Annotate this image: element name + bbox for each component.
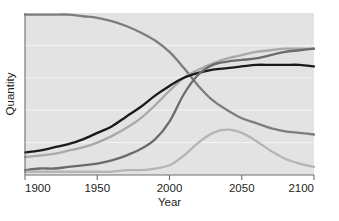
x-tick-label-1950: 1950 [84,182,110,194]
x-tick-label-2100: 2100 [288,182,314,194]
y-axis-title: Quantity [4,72,16,115]
x-tick-label-2050: 2050 [229,182,255,194]
x-axis-tick-labels: 19001950200020502100 [25,182,314,194]
x-axis-title: Year [158,196,181,208]
x-tick-label-1900: 1900 [25,182,51,194]
x-tick-label-2000: 2000 [157,182,183,194]
chart-canvas: 19001950200020502100 Year Quantity [0,0,339,221]
x-axis-ticks [25,175,314,180]
line-chart: 19001950200020502100 Year Quantity [0,0,339,221]
